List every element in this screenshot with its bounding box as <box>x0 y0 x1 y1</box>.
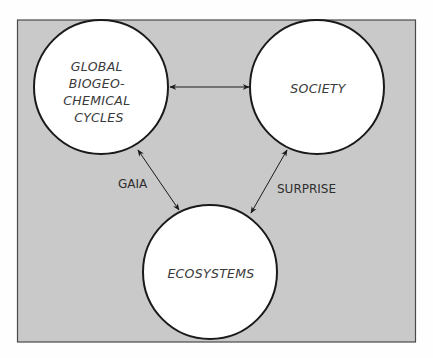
edge-label-surprise: SURPRISE <box>277 182 336 196</box>
node-label-society: SOCIETY <box>290 81 347 96</box>
edge-label-gaia: GAIA <box>118 177 148 191</box>
diagram-canvas: GLOBAL BIOGEO- CHEMICAL CYCLES SOCIETY E… <box>0 0 433 358</box>
node-label-ecosystems: ECOSYSTEMS <box>167 266 254 281</box>
